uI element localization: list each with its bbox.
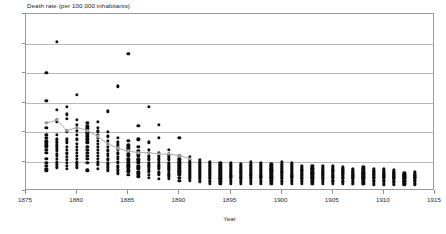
x-tick-label: 1915 bbox=[427, 196, 441, 203]
y-tick-mark bbox=[22, 131, 25, 132]
x-tick-label: 1905 bbox=[325, 196, 339, 203]
x-tick-mark bbox=[76, 190, 77, 194]
plot-area bbox=[25, 13, 434, 190]
average-line bbox=[26, 14, 435, 191]
chart-title: Death rate (per 100,000 inhabitants) bbox=[27, 2, 130, 9]
x-tick-label: 1895 bbox=[223, 196, 237, 203]
y-tick-mark bbox=[22, 161, 25, 162]
x-tick-mark bbox=[25, 190, 26, 194]
x-tick-mark bbox=[230, 190, 231, 194]
y-tick-mark bbox=[22, 13, 25, 14]
x-tick-label: 1885 bbox=[120, 196, 134, 203]
y-tick-mark bbox=[22, 102, 25, 103]
x-tick-mark bbox=[127, 190, 128, 194]
x-tick-mark bbox=[178, 190, 179, 194]
x-tick-mark bbox=[383, 190, 384, 194]
x-tick-label: 1910 bbox=[376, 196, 390, 203]
scatter-chart: Death rate (per 100,000 inhabitants) 020… bbox=[0, 0, 446, 234]
x-tick-label: 1875 bbox=[18, 196, 32, 203]
x-tick-label: 1890 bbox=[171, 196, 185, 203]
x-tick-label: 1900 bbox=[274, 196, 288, 203]
x-tick-mark bbox=[434, 190, 435, 194]
x-tick-mark bbox=[332, 190, 333, 194]
y-tick-mark bbox=[22, 72, 25, 73]
y-tick-mark bbox=[22, 43, 25, 44]
x-axis-title: Year bbox=[223, 215, 236, 222]
x-tick-mark bbox=[281, 190, 282, 194]
x-tick-label: 1880 bbox=[69, 196, 83, 203]
